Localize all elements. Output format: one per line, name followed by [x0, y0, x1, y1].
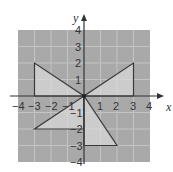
- svg-text:−2: −2: [70, 123, 83, 135]
- y-axis-label: y: [72, 11, 79, 25]
- svg-text:3: 3: [75, 41, 81, 53]
- svg-text:−1: −1: [70, 107, 83, 119]
- origin-point: [82, 94, 86, 98]
- svg-text:2: 2: [113, 100, 119, 112]
- svg-text:−2: −2: [45, 100, 58, 112]
- svg-text:3: 3: [130, 100, 136, 112]
- svg-text:1: 1: [75, 74, 81, 86]
- coordinate-grid-diagram: x y −4 −3 −2 −1 1 2 3 4 4 3 2 1 −1 −2 −3…: [0, 0, 173, 172]
- svg-text:4: 4: [146, 100, 152, 112]
- x-axis-label: x: [165, 100, 172, 114]
- svg-text:−4: −4: [70, 156, 83, 168]
- svg-text:−3: −3: [70, 140, 83, 152]
- svg-text:1: 1: [97, 100, 103, 112]
- svg-text:2: 2: [75, 57, 81, 69]
- x-axis-arrow-icon: [157, 93, 164, 99]
- svg-text:−4: −4: [12, 100, 25, 112]
- y-axis-arrow-icon: [81, 14, 87, 21]
- svg-text:4: 4: [75, 24, 81, 36]
- svg-text:−3: −3: [28, 100, 41, 112]
